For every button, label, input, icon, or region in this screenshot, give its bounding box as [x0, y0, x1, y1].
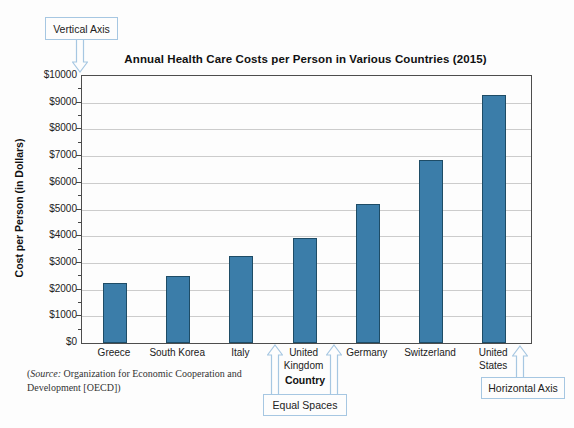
- gridline-7000: [82, 156, 531, 157]
- gridline-6000: [82, 183, 531, 184]
- y-tick-label-10000: $10000: [8, 69, 77, 80]
- x-tick-label-united-kingdom: UnitedKingdom: [284, 347, 323, 372]
- y-major-tick-2000: [76, 289, 81, 290]
- gridline-9000: [82, 103, 531, 104]
- bar-greece: [103, 283, 127, 343]
- y-minor-tick-8500: [78, 115, 81, 116]
- bar-united-states: [482, 95, 506, 343]
- y-tick-label-4000: $4000: [8, 229, 77, 240]
- y-major-tick-4000: [76, 235, 81, 236]
- y-tick-label-1000: $1000: [8, 309, 77, 320]
- equal-spaces-arrow-up-right-icon: [326, 344, 342, 395]
- source-note: (Source: Organization for Economic Coope…: [27, 367, 282, 395]
- y-major-tick-1000: [76, 315, 81, 316]
- horizontal-axis-arrow-up-icon: [512, 345, 528, 378]
- source-note-line1: (Source: Organization for Economic Coope…: [27, 367, 282, 381]
- x-tick-label-germany: Germany: [346, 347, 387, 360]
- vertical-axis-arrow-down-icon: [72, 39, 88, 73]
- y-major-tick-6000: [76, 182, 81, 183]
- y-minor-tick-3500: [78, 249, 81, 250]
- bar-south-korea: [166, 276, 190, 343]
- y-minor-tick-4500: [78, 222, 81, 223]
- bar-switzerland: [419, 160, 443, 343]
- bar-united-kingdom: [293, 238, 317, 344]
- y-minor-tick-1500: [78, 302, 81, 303]
- equal-spaces-callout-label: Equal Spaces: [273, 399, 338, 411]
- y-minor-tick-9500: [78, 88, 81, 89]
- y-tick-label-6000: $6000: [8, 176, 77, 187]
- y-tick-label-8000: $8000: [8, 122, 77, 133]
- equal-spaces-arrow-up-left-icon: [267, 344, 283, 395]
- x-tick-label-south-korea: South Korea: [149, 347, 205, 360]
- y-major-tick-8000: [76, 128, 81, 129]
- bar-italy: [229, 256, 253, 343]
- vertical-axis-callout-label: Vertical Axis: [53, 23, 110, 35]
- y-major-tick-5000: [76, 209, 81, 210]
- y-tick-label-9000: $9000: [8, 96, 77, 107]
- y-major-tick-3000: [76, 262, 81, 263]
- source-note-line2: Development [OECD]): [27, 381, 282, 395]
- y-tick-label-3000: $3000: [8, 256, 77, 267]
- annotated-bar-chart-figure: Vertical Axis Annual Health Care Costs p…: [0, 0, 574, 428]
- bar-germany: [356, 204, 380, 343]
- y-tick-label-7000: $7000: [8, 149, 77, 160]
- x-tick-label-greece: Greece: [98, 347, 131, 360]
- y-minor-tick-7500: [78, 142, 81, 143]
- vertical-axis-callout: Vertical Axis: [45, 17, 118, 40]
- equal-spaces-callout: Equal Spaces: [263, 394, 347, 416]
- y-major-tick-9000: [76, 102, 81, 103]
- y-minor-tick-500: [78, 329, 81, 330]
- y-minor-tick-2500: [78, 275, 81, 276]
- x-axis-title: Country: [285, 374, 325, 386]
- gridline-5000: [82, 210, 531, 211]
- x-tick-label-italy: Italy: [231, 347, 249, 360]
- source-label: Source:: [30, 368, 61, 379]
- y-tick-label-0: $0: [8, 336, 77, 347]
- x-tick-label-switzerland: Switzerland: [404, 347, 456, 360]
- gridline-8000: [82, 129, 531, 130]
- y-major-tick-7000: [76, 155, 81, 156]
- x-tick-label-united-states: UnitedStates: [479, 347, 508, 372]
- y-minor-tick-6500: [78, 168, 81, 169]
- y-tick-label-2000: $2000: [8, 283, 77, 294]
- horizontal-axis-callout-label: Horizontal Axis: [488, 382, 557, 394]
- plot-area: [81, 75, 532, 344]
- y-minor-tick-5500: [78, 195, 81, 196]
- y-tick-label-5000: $5000: [8, 203, 77, 214]
- horizontal-axis-callout: Horizontal Axis: [481, 377, 565, 399]
- chart-title: Annual Health Care Costs per Person in V…: [81, 53, 530, 65]
